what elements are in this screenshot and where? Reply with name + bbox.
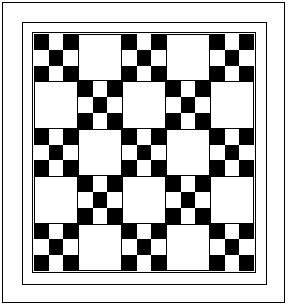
nine-patch-block [122, 34, 166, 81]
patch-dark [63, 66, 78, 82]
patch-dark [195, 81, 210, 97]
patch-light [151, 50, 166, 66]
figure-title: Nine-Patch Quilt Block Layout Diagram [0, 21, 1, 22]
patch-light [239, 50, 254, 66]
patch-light [181, 208, 196, 224]
patch-light [239, 145, 254, 161]
patch-dark [34, 255, 49, 271]
patch-light [137, 160, 152, 176]
patch-light [137, 255, 152, 271]
patch-light [78, 97, 93, 113]
patch-dark [78, 81, 93, 97]
patch-light [93, 113, 108, 129]
patch-light [181, 113, 196, 129]
patch-light [210, 239, 225, 255]
patch-light [225, 34, 240, 50]
patch-light [122, 50, 137, 66]
patch-light [225, 255, 240, 271]
patch-light [122, 145, 137, 161]
patch-light [63, 145, 78, 161]
patch-light [122, 239, 137, 255]
patch-dark [122, 34, 137, 50]
patch-dark [34, 224, 49, 240]
patch-light [34, 50, 49, 66]
nine-patch-block [34, 129, 78, 176]
nine-patch-block [210, 129, 254, 176]
patch-dark [107, 176, 122, 192]
patch-dark [93, 192, 108, 208]
patch-dark [195, 176, 210, 192]
patch-dark [93, 97, 108, 113]
patch-light [239, 239, 254, 255]
patch-light [137, 224, 152, 240]
nine-patch-block [122, 129, 166, 176]
patch-light [210, 145, 225, 161]
nine-patch-block [34, 224, 78, 271]
patch-light [225, 160, 240, 176]
patch-light [225, 66, 240, 82]
patch-dark [107, 113, 122, 129]
plain-block [78, 129, 122, 176]
patch-light [93, 81, 108, 97]
patch-dark [107, 208, 122, 224]
patch-dark [34, 160, 49, 176]
patch-dark [225, 145, 240, 161]
patch-dark [78, 208, 93, 224]
patch-light [93, 176, 108, 192]
patch-dark [63, 255, 78, 271]
quilt-top-grid [34, 34, 254, 271]
patch-dark [122, 129, 137, 145]
patch-light [166, 192, 181, 208]
patch-light [151, 145, 166, 161]
patch-light [151, 239, 166, 255]
patch-light [49, 66, 64, 82]
patch-dark [63, 160, 78, 176]
plain-block [210, 81, 254, 128]
plain-block [166, 129, 210, 176]
patch-light [49, 224, 64, 240]
inner-border [32, 32, 256, 273]
patch-light [49, 160, 64, 176]
patch-dark [210, 129, 225, 145]
patch-dark [166, 113, 181, 129]
outer-frame [2, 2, 285, 303]
patch-dark [210, 66, 225, 82]
patch-dark [151, 34, 166, 50]
patch-dark [166, 176, 181, 192]
patch-dark [137, 50, 152, 66]
patch-light [137, 66, 152, 82]
patch-dark [122, 160, 137, 176]
nine-patch-block [166, 176, 210, 223]
patch-dark [107, 81, 122, 97]
patch-light [49, 129, 64, 145]
patch-dark [195, 208, 210, 224]
patch-dark [49, 50, 64, 66]
patch-dark [151, 255, 166, 271]
patch-dark [239, 66, 254, 82]
patch-light [63, 239, 78, 255]
patch-light [225, 129, 240, 145]
patch-dark [63, 129, 78, 145]
patch-light [34, 145, 49, 161]
patch-light [166, 97, 181, 113]
patch-dark [210, 160, 225, 176]
patch-dark [63, 224, 78, 240]
patch-light [63, 50, 78, 66]
patch-dark [151, 66, 166, 82]
plain-block [34, 176, 78, 223]
nine-patch-block [166, 81, 210, 128]
plain-block [122, 81, 166, 128]
patch-dark [122, 224, 137, 240]
patch-light [78, 192, 93, 208]
patch-dark [181, 97, 196, 113]
patch-dark [210, 224, 225, 240]
nine-patch-block [122, 224, 166, 271]
patch-dark [137, 239, 152, 255]
patch-light [225, 224, 240, 240]
patch-light [49, 34, 64, 50]
patch-dark [239, 224, 254, 240]
patch-dark [225, 50, 240, 66]
patch-dark [166, 208, 181, 224]
patch-dark [239, 255, 254, 271]
patch-light [137, 129, 152, 145]
